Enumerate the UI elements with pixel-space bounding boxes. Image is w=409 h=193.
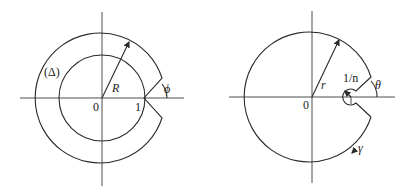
left-radius-label: R: [111, 81, 120, 95]
right-small-radius-label: 1/n: [343, 71, 358, 85]
left-region-label: (Δ): [44, 65, 60, 79]
left-figure: (Δ) R 0 1 ϕ: [20, 12, 184, 186]
left-unit-label: 1: [135, 100, 141, 114]
right-contour-arrow: [352, 149, 356, 153]
right-angle-label: θ: [375, 78, 381, 92]
left-angle-label: ϕ: [164, 82, 170, 96]
right-origin-label: 0: [303, 98, 309, 112]
right-radius-label: r: [321, 78, 326, 92]
diagram-canvas: (Δ) R 0 1 ϕ r 1/n 0 θ γ: [0, 0, 409, 193]
left-origin-label: 0: [93, 100, 99, 114]
right-small-radius-arrow: [345, 91, 351, 97]
right-figure: r 1/n 0 θ γ: [229, 11, 395, 183]
right-contour-label: γ: [358, 141, 363, 155]
